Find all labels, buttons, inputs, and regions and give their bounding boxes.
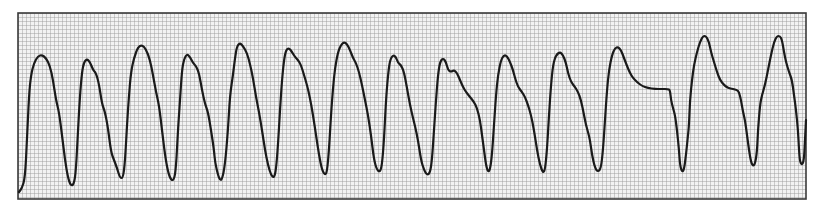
ecg-strip xyxy=(0,0,820,209)
grid-background xyxy=(18,13,806,199)
